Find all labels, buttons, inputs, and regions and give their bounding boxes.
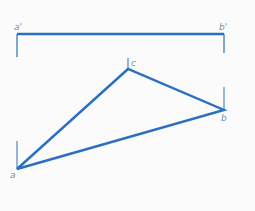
label-a: a	[10, 170, 16, 180]
label-b-prime: b'	[219, 22, 227, 32]
triangle-abc	[17, 69, 224, 169]
label-b: b	[221, 113, 227, 123]
label-a-prime: a'	[14, 22, 22, 32]
label-c: c	[131, 58, 136, 68]
projection-diagram: a' b' c b a	[0, 0, 255, 211]
